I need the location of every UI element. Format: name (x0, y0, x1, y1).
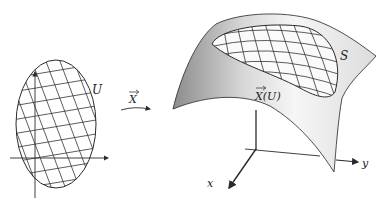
surface-label: S (340, 49, 348, 63)
y-axis (336, 160, 358, 162)
surface: S X(U) (173, 14, 376, 172)
domain-plane: U (0, 40, 140, 205)
domain-label: U (92, 83, 103, 97)
x-axis-label: x (207, 177, 214, 190)
x-axis (229, 149, 256, 188)
map-arrow-line (121, 108, 150, 110)
y-axis-label: y (361, 157, 369, 170)
map-label: X (128, 93, 138, 106)
y-axis-hidden (245, 149, 320, 156)
diagram-canvas: U X S X(U) y x (0, 0, 387, 205)
domain-grid (0, 40, 140, 205)
image-label: X(U) (254, 90, 281, 103)
map-arrow: X (121, 90, 150, 110)
coordinate-axes: y x (207, 110, 369, 190)
